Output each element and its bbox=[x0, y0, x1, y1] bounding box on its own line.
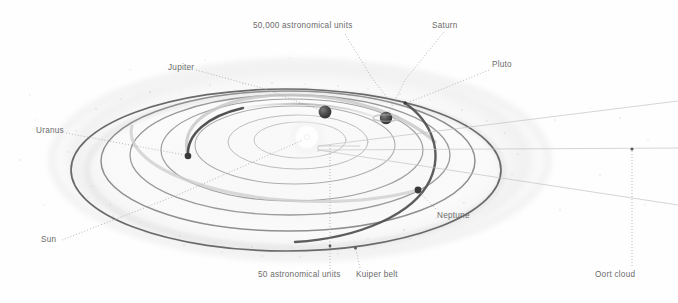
label-sun: Sun bbox=[41, 236, 56, 244]
diagram-canvas bbox=[0, 0, 678, 303]
label-neptune: Neptune bbox=[437, 212, 470, 220]
planet-jupiter bbox=[319, 106, 332, 119]
planet-neptune bbox=[415, 187, 422, 194]
endpoint-au50 bbox=[329, 245, 332, 248]
label-50-astronomical-units: 50 astronomical units bbox=[258, 271, 341, 279]
label-uranus: Uranus bbox=[36, 127, 64, 135]
endpoint-kuiper-belt bbox=[354, 247, 357, 250]
endpoint-oort-cloud bbox=[630, 147, 633, 150]
planet-uranus bbox=[185, 153, 192, 160]
sun bbox=[281, 111, 333, 163]
label-50000-astronomical-units: 50,000 astronomical units bbox=[253, 22, 353, 30]
planet-pluto bbox=[403, 101, 406, 104]
label-kuiper-belt: Kuiper belt bbox=[356, 271, 398, 279]
solar-system-diagram: 50,000 astronomical units Saturn Pluto J… bbox=[0, 0, 678, 303]
label-saturn: Saturn bbox=[432, 22, 458, 30]
label-oort-cloud: Oort cloud bbox=[595, 271, 635, 279]
label-pluto: Pluto bbox=[492, 61, 512, 69]
label-jupiter: Jupiter bbox=[168, 64, 194, 72]
